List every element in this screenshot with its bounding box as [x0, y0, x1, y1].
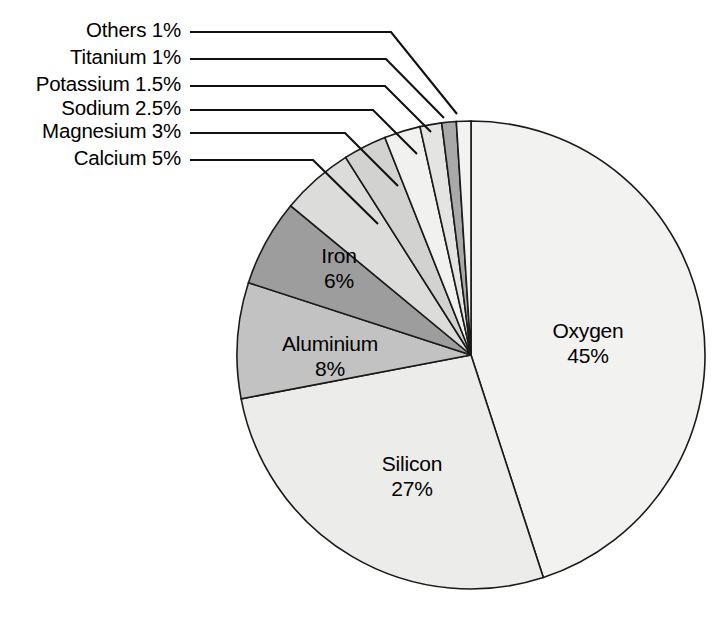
slice-label-potassium: Potassium 1.5%: [36, 72, 181, 95]
slice-label-name-oxygen: Oxygen: [552, 319, 623, 342]
slice-label-value-aluminium: 8%: [315, 357, 345, 380]
slice-label-value-iron: 6%: [324, 269, 354, 292]
slice-label-value-silicon: 27%: [391, 477, 432, 500]
slice-label-name-iron: Iron: [321, 244, 356, 267]
slice-label-magnesium: Magnesium 3%: [42, 119, 181, 142]
pie-chart-svg: Oxygen45%Silicon27%Aluminium8%Iron6%Calc…: [0, 0, 727, 633]
slice-label-titanium: Titanium 1%: [70, 45, 181, 68]
slice-label-name-silicon: Silicon: [382, 452, 442, 475]
pie-slices-group: [237, 121, 705, 589]
slice-label-value-oxygen: 45%: [567, 344, 608, 367]
slice-label-name-aluminium: Aluminium: [282, 332, 378, 355]
pie-chart-figure: Oxygen45%Silicon27%Aluminium8%Iron6%Calc…: [0, 0, 727, 633]
slice-label-others: Others 1%: [86, 18, 181, 41]
slice-label-sodium: Sodium 2.5%: [61, 96, 181, 119]
slice-label-calcium: Calcium 5%: [74, 146, 181, 169]
